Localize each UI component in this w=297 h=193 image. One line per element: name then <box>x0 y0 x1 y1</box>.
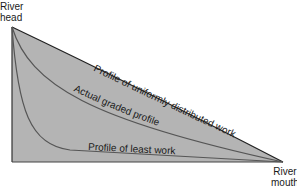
river-mouth-label: River mouth <box>271 166 297 188</box>
river-profile-diagram: Profile of uniformly distributed work Ac… <box>0 0 297 193</box>
mouth-line2: mouth <box>271 177 297 188</box>
mouth-line1: River <box>271 166 297 177</box>
